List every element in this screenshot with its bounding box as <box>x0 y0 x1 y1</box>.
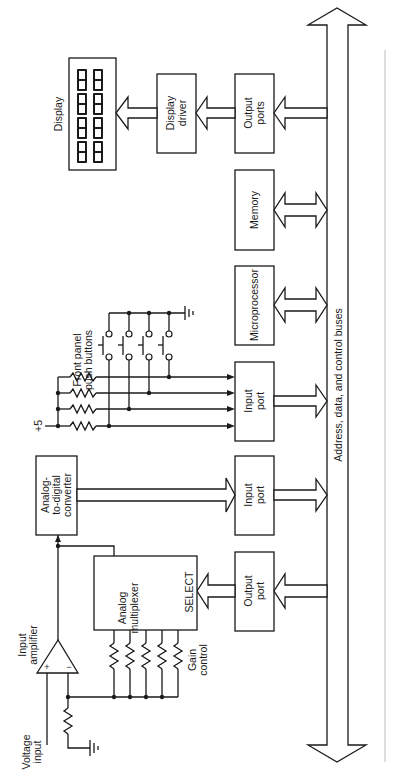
output-port-mux-label-2: port <box>254 582 266 600</box>
display-driver-label-2: driver <box>176 99 188 126</box>
memory-label: Memory <box>248 190 260 229</box>
arrowhead <box>55 535 61 542</box>
supply-label: +5 <box>32 420 44 432</box>
input-port-buttons-label-2: port <box>254 392 266 410</box>
system-block-diagram: Address, data, and control buses Display… <box>0 0 393 776</box>
bus-label: Address, data, and control buses <box>332 308 344 462</box>
analog-multiplexer-block <box>94 556 197 630</box>
wire <box>68 734 90 748</box>
gain-resistor-5 <box>174 630 182 697</box>
amp-plus: + <box>44 662 49 672</box>
input-resistor <box>64 708 72 734</box>
input-amplifier <box>37 640 78 673</box>
gain-resistor-2 <box>126 630 134 699</box>
amp-label-2: amplifier <box>27 625 39 665</box>
gain-resistor-4 <box>158 630 166 699</box>
arrow-memory-bus <box>274 193 327 227</box>
display-driver-label-1: Display <box>164 95 176 130</box>
mux-select-label: SELECT <box>183 571 195 612</box>
ground-icon <box>185 306 193 320</box>
gain-resistors <box>110 630 182 699</box>
push-button-switches <box>98 306 193 428</box>
input-port-buttons-label-1: Input <box>242 389 254 412</box>
arrow-bus-to-output-port <box>274 574 327 608</box>
gain-resistor-1 <box>110 630 118 699</box>
display-block <box>69 58 116 170</box>
arrow-input-port-to-bus <box>274 385 327 417</box>
arrow-driver-to-display <box>116 97 157 129</box>
output-ports-label-1: Output <box>242 97 254 129</box>
arrow-microprocessor-bus <box>274 288 327 322</box>
adc-label-3: converter <box>61 473 73 517</box>
arrow-adc-port-to-bus <box>274 479 327 511</box>
display-label: Display <box>52 96 64 131</box>
push-buttons-label-2: push buttons <box>82 330 94 390</box>
mux-label-2: multiplexer <box>128 582 140 633</box>
gain-label-2: control <box>197 644 209 676</box>
mux-label-1: Analog <box>116 591 128 624</box>
ground-icon <box>90 740 98 756</box>
arrow-ports-to-driver <box>196 97 235 129</box>
output-port-mux-label-1: Output <box>242 575 254 607</box>
amp-minus: − <box>66 662 71 672</box>
arrow-bus-to-ports <box>274 97 327 129</box>
input-port-adc-label-1: Input <box>242 483 254 506</box>
voltage-label-2: input <box>31 741 43 764</box>
input-port-adc-label-2: port <box>254 486 266 504</box>
arrow-adc-to-input-port <box>77 478 235 512</box>
microprocessor-label: Microprocessor <box>248 269 260 341</box>
pullup-resistors <box>58 373 235 430</box>
mux-to-adc-wire <box>58 535 114 556</box>
arrow-output-port-to-mux <box>197 574 235 608</box>
output-ports-label-2: ports <box>254 101 266 124</box>
gain-resistor-3 <box>142 630 150 699</box>
